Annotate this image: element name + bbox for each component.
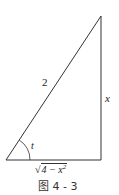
hypotenuse-label: 2 bbox=[42, 77, 48, 88]
figure-caption: 图 4 - 3 bbox=[38, 181, 77, 192]
adjacent-side-label: √4 − x2 bbox=[35, 163, 67, 175]
opposite-side-label: x bbox=[105, 93, 110, 104]
angle-arc bbox=[19, 140, 30, 160]
radicand-text: 4 − x bbox=[42, 164, 63, 175]
exponent: 2 bbox=[63, 163, 67, 171]
radicand: 4 − x2 bbox=[41, 163, 68, 175]
hypotenuse-line bbox=[6, 16, 101, 160]
angle-label: t bbox=[31, 141, 34, 151]
